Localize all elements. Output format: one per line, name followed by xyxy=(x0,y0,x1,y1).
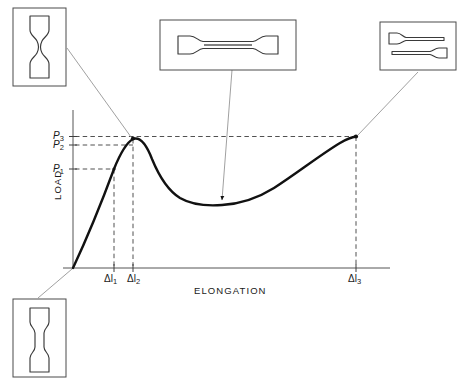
point-proportional-limit xyxy=(112,167,115,170)
leader-fractured-to-fracture-point xyxy=(358,72,418,135)
x-tick-label-dl3-sub: 3 xyxy=(357,277,361,286)
curve-group xyxy=(73,137,356,269)
point-fracture xyxy=(354,134,358,138)
leader-necking-to-peak xyxy=(67,48,131,137)
x-axis-title: ELONGATION xyxy=(194,286,267,296)
figure-canvas xyxy=(0,0,469,388)
load-elongation-curve xyxy=(73,137,356,269)
y-tick-label-p1-sub: 1 xyxy=(60,167,64,176)
specimen-box-cold-drawn xyxy=(160,20,296,70)
x-tick-label-dl1-base: Δl xyxy=(104,273,113,284)
y-tick-label-p1-base: P xyxy=(53,163,60,174)
y-tick-label-p2-base: P xyxy=(53,139,60,150)
axes-group xyxy=(63,110,390,268)
leader-lines-group xyxy=(38,48,418,298)
leader-drawn-to-plateau xyxy=(222,70,232,200)
specimen-box-fractured xyxy=(380,22,456,70)
x-tick-label-dl2-base: Δl xyxy=(127,273,136,284)
specimen-box-undeformed xyxy=(13,299,66,377)
x-tick-label-dl2-sub: 2 xyxy=(136,277,140,286)
load-elongation-figure: LOAD ELONGATION P3 P2 P1 Δl1 Δl2 Δl3 xyxy=(0,0,469,388)
x-tick-label-dl1: Δl1 xyxy=(104,274,117,286)
specimen-box-necking xyxy=(13,8,66,86)
y-tick-label-p1: P1 xyxy=(53,164,64,176)
x-tick-label-dl2: Δl2 xyxy=(127,274,140,286)
specimen-box-fractured-frame xyxy=(380,22,456,70)
x-tick-label-dl3: Δl3 xyxy=(348,274,361,286)
x-tick-label-dl3-base: Δl xyxy=(348,273,357,284)
y-tick-label-p2-sub: 2 xyxy=(60,143,64,152)
x-tick-label-dl1-sub: 1 xyxy=(113,277,117,286)
y-tick-label-p2: P2 xyxy=(53,140,64,152)
leader-undeformed-to-origin xyxy=(38,269,72,298)
construction-lines-group xyxy=(75,137,356,267)
point-yield-peak xyxy=(131,136,135,140)
